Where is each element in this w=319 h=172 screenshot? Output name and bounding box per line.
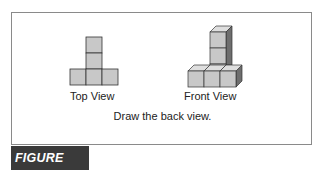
top-view-square [86, 37, 102, 53]
figure-label: FIGURE 12.3 [11, 146, 89, 170]
top-view-square [86, 69, 102, 85]
instruction-text: Draw the back view. [12, 110, 313, 122]
figure-frame: Top View Front View Draw the back v [11, 12, 312, 145]
front-view-diagram [187, 18, 267, 90]
top-view-square [70, 69, 86, 85]
top-view-square [86, 53, 102, 69]
top-view-diagram [69, 36, 121, 86]
top-view-square [102, 69, 118, 85]
top-view-caption: Top View [70, 90, 114, 102]
front-view-caption: Front View [184, 90, 236, 102]
